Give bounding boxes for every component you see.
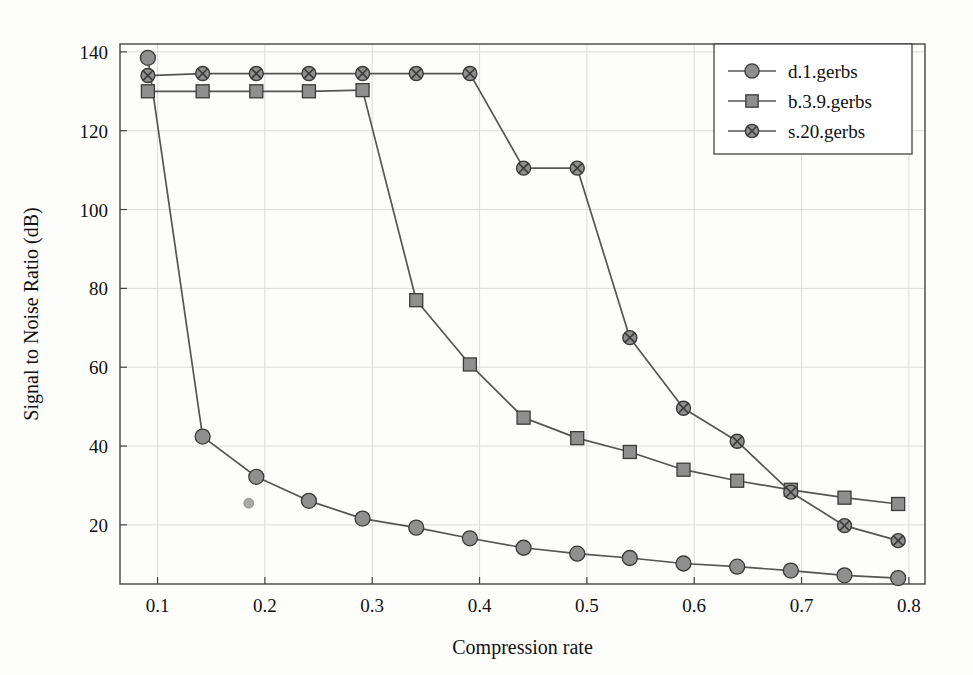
data-point-circle [462,531,477,546]
y-tick-label: 140 [80,42,109,63]
data-point-circle-cross [517,161,531,175]
data-point-circle [516,540,531,555]
data-point-circle-cross [409,67,423,81]
data-point-square [892,497,905,510]
data-point-square [196,85,209,98]
data-point-circle-cross [623,331,637,345]
data-point-circle-cross [677,401,691,415]
chart-figure: 0.10.20.30.40.50.60.70.82040608010012014… [0,0,973,675]
data-point-circle-cross [141,69,155,83]
data-point-circle-cross [249,67,263,81]
x-axis-title: Compression rate [452,636,593,659]
x-tick-label: 0.3 [360,595,384,616]
y-tick-label: 40 [89,436,108,457]
data-point-square [302,85,315,98]
data-point-circle [140,50,155,65]
x-tick-label: 0.5 [575,595,599,616]
data-point-circle [409,520,424,535]
data-point-square [731,474,744,487]
data-point-circle-cross [302,67,316,81]
x-tick-label: 0.6 [682,595,706,616]
data-point-circle [837,568,852,583]
data-point-square [141,85,154,98]
data-point-circle [745,64,759,78]
data-point-circle [891,571,906,586]
legend: d.1.gerbsb.3.9.gerbss.20.gerbs [714,44,912,154]
legend-label: d.1.gerbs [788,61,858,82]
y-tick-label: 60 [89,357,108,378]
stray-dot-artifact [244,498,254,508]
y-tick-label: 100 [80,200,109,221]
data-point-circle-cross [891,534,905,548]
x-tick-label: 0.4 [468,595,492,616]
data-point-square [623,445,636,458]
chart-canvas: 0.10.20.30.40.50.60.70.82040608010012014… [0,0,973,675]
data-point-circle [570,546,585,561]
stray-dot [244,498,254,508]
data-point-square [410,294,423,307]
x-tick-label: 0.7 [790,595,814,616]
data-point-square [250,85,263,98]
y-tick-label: 120 [80,121,109,142]
data-point-circle-cross [463,67,477,81]
data-point-circle-cross [570,161,584,175]
x-tick-label: 0.2 [253,595,277,616]
data-point-square [356,84,369,97]
data-point-square [463,358,476,371]
data-point-circle [676,556,691,571]
data-point-circle-cross [745,124,758,137]
data-point-square [746,95,758,107]
data-point-circle-cross [838,519,852,533]
data-point-square [838,491,851,504]
data-point-circle-cross [784,485,798,499]
y-tick-label: 20 [89,515,108,536]
data-point-square [677,463,690,476]
data-point-circle [195,429,210,444]
x-tick-label: 0.1 [146,595,170,616]
data-point-circle-cross [356,67,370,81]
data-point-circle [355,511,370,526]
data-point-circle [622,550,637,565]
legend-label: s.20.gerbs [788,121,865,142]
data-point-circle [249,469,264,484]
data-point-square [517,411,530,424]
y-axis-title: Signal to Noise Ratio (dB) [20,207,43,420]
data-point-circle [730,559,745,574]
data-point-circle [783,563,798,578]
x-tick-label: 0.8 [897,595,921,616]
y-tick-label: 80 [89,278,108,299]
data-point-circle-cross [196,67,210,81]
data-point-circle [301,493,316,508]
legend-label: b.3.9.gerbs [788,91,872,112]
data-point-circle-cross [730,434,744,448]
data-point-square [571,432,584,445]
